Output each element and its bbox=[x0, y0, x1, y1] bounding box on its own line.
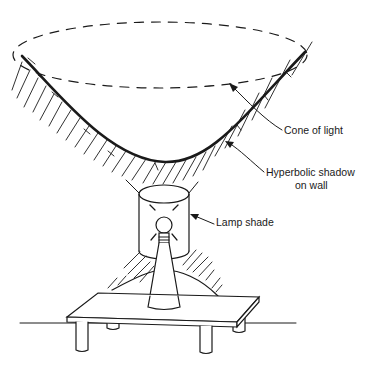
label-lamp-shade: Lamp shade bbox=[216, 216, 274, 228]
label-on-wall: on wall bbox=[295, 179, 328, 191]
hyperbola-curve bbox=[22, 52, 305, 162]
label-cone-of-light: Cone of light bbox=[284, 124, 343, 136]
lamp-base-front bbox=[148, 296, 180, 310]
lamp-hyperbola-diagram: Cone of light Hyperbolic shadow on wall … bbox=[0, 0, 371, 366]
hyperbolic-shadow-leader bbox=[225, 141, 264, 172]
label-hyperbolic-shadow: Hyperbolic shadow bbox=[266, 166, 355, 178]
light-bulb bbox=[156, 217, 172, 243]
lamp-shade-leader bbox=[190, 214, 214, 224]
cone-of-light-ellipse bbox=[13, 22, 307, 88]
